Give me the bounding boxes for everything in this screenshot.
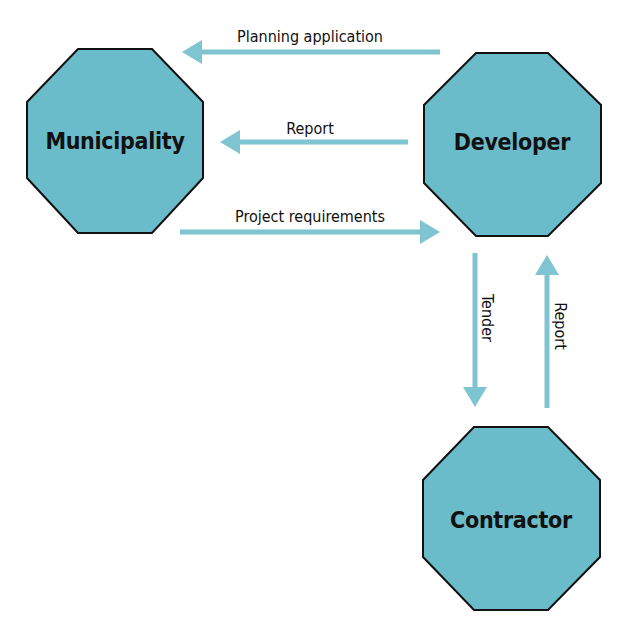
arrow-right-icon [420, 220, 440, 244]
node-contractor: Contractor [423, 427, 600, 610]
municipality-label: Municipality [45, 128, 185, 154]
contractor-label: Contractor [450, 507, 573, 533]
developer-label: Developer [454, 129, 572, 155]
arrow-down-icon [463, 387, 487, 407]
project-requirements-label: Project requirements [235, 207, 385, 226]
arrow-up-icon [535, 255, 559, 275]
edge-report-to-municipality: Report [220, 119, 408, 154]
arrow-left-icon [182, 40, 202, 64]
edge-tender: Tender [463, 253, 497, 407]
edge-report-to-developer: Report [535, 255, 570, 408]
report-up-label: Report [551, 302, 570, 350]
node-municipality: Municipality [27, 49, 203, 233]
edge-planning-application: Planning application [182, 27, 440, 64]
node-developer: Developer [424, 53, 601, 236]
edge-project-requirements: Project requirements [180, 207, 440, 244]
planning-application-label: Planning application [237, 27, 383, 46]
arrow-left-icon [220, 130, 240, 154]
report-label: Report [286, 119, 334, 138]
flow-diagram: Municipality Developer Contractor Planni… [0, 0, 636, 644]
tender-label: Tender [478, 293, 497, 342]
